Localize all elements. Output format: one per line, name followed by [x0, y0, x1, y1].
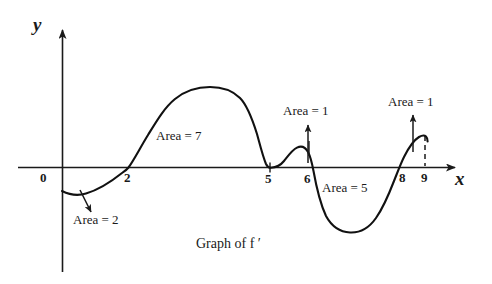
figure-canvas: y x 0 2 5 6 8 9 Area = 2 Area = 7 Area =… [0, 0, 492, 284]
area-label-1-right: Area = 1 [388, 94, 434, 110]
x-tick-label-9: 9 [421, 170, 428, 186]
area-label-5: Area = 5 [322, 180, 368, 196]
x-tick-label-8: 8 [399, 170, 406, 186]
area-label-1-left: Area = 1 [283, 103, 329, 119]
origin-label: 0 [40, 170, 47, 186]
y-axis-label: y [33, 14, 41, 36]
area-label-7: Area = 7 [156, 128, 202, 144]
figure-caption: Graph of f ′ [196, 236, 261, 252]
x-tick-label-5: 5 [265, 171, 272, 187]
x-tick-label-2: 2 [124, 170, 131, 186]
x-tick-label-6: 6 [304, 171, 311, 187]
area-label-2: Area = 2 [73, 212, 119, 228]
fprime-curve [62, 87, 428, 233]
x-axis-label: x [455, 168, 465, 190]
